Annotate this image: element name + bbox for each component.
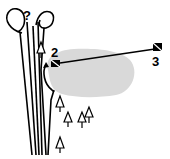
tree-icon — [56, 137, 64, 153]
line-fan — [20, 22, 54, 155]
line-6 — [48, 90, 54, 155]
marker-2-label: 2 — [51, 45, 58, 60]
tree-icon — [56, 96, 64, 112]
line-1 — [20, 32, 32, 155]
question-mark-label: ? — [23, 8, 31, 23]
shaded-area — [47, 49, 134, 97]
line-2 — [27, 22, 36, 155]
marker-3: 3 — [152, 43, 162, 69]
tree-icon — [78, 112, 86, 128]
tree-icon — [85, 107, 93, 123]
tree-icon — [64, 112, 72, 127]
diagram-canvas: ? 2 3 — [0, 0, 170, 159]
marker-3-label: 3 — [152, 54, 159, 69]
loop-left — [7, 9, 25, 33]
